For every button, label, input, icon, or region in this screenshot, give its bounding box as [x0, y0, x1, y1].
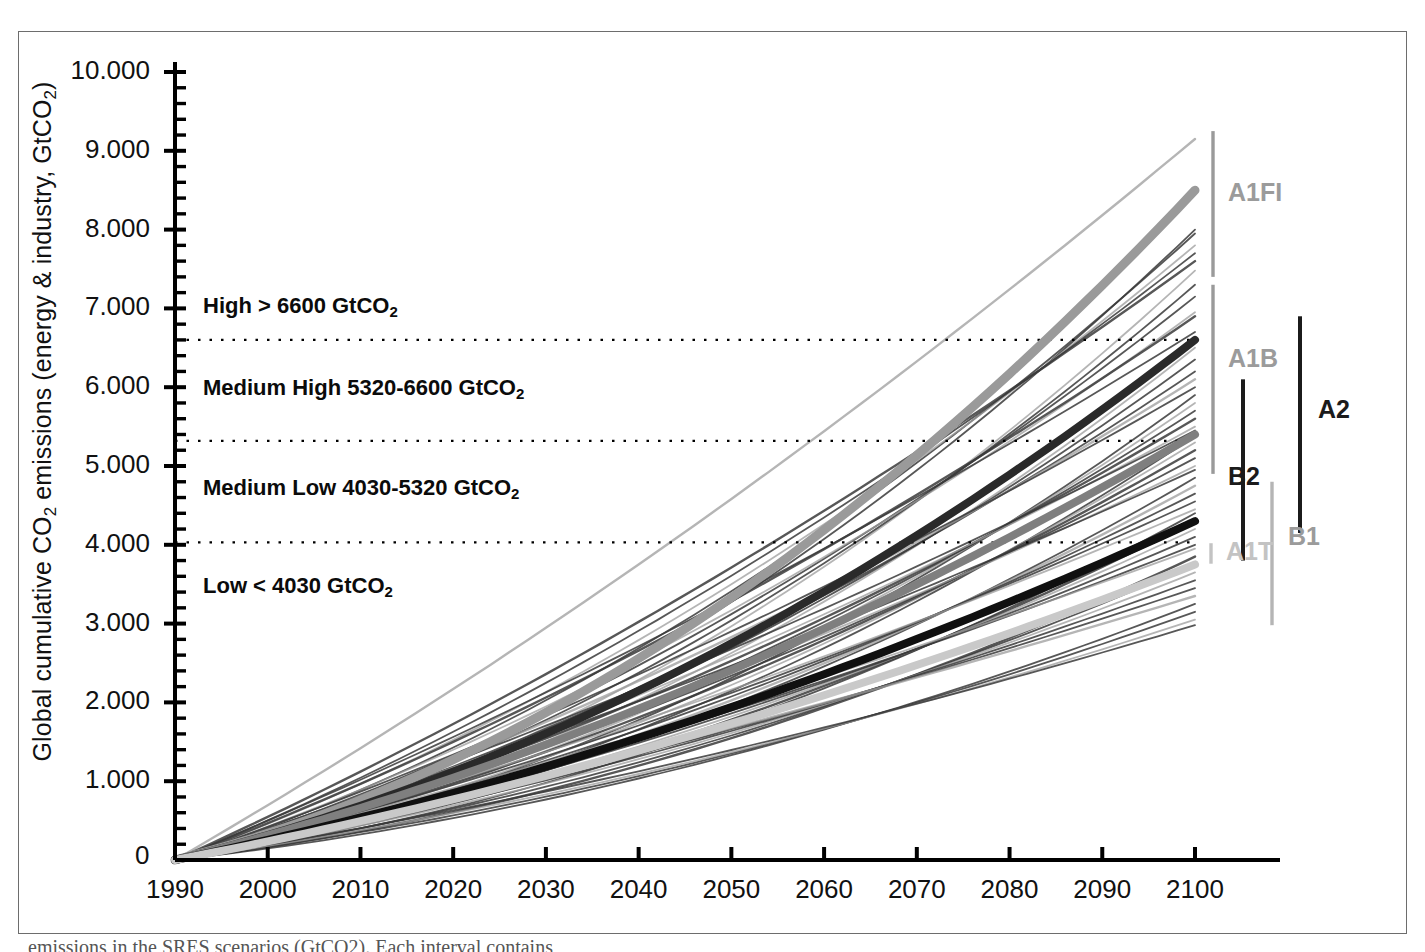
y-tick-label-8000: 8.000 — [30, 213, 150, 244]
y-tick-label-3000: 3.000 — [30, 607, 150, 638]
scenario-line-A1FI — [175, 190, 1195, 860]
legend-label-A1T: A1T — [1226, 537, 1273, 566]
figure-caption: emissions in the SRES scenarios (GtCO2).… — [28, 936, 1408, 952]
band-label-text: Medium High 5320-6600 GtCO — [203, 375, 516, 400]
y-tick-label-6000: 6.000 — [30, 370, 150, 401]
scenario-line-thin — [175, 261, 1195, 860]
legend-label-B2: B2 — [1228, 462, 1260, 491]
y-tick-label-5000: 5.000 — [30, 449, 150, 480]
y-tick-label-1000: 1.000 — [30, 764, 150, 795]
legend-label-A1FI: A1FI — [1228, 178, 1282, 207]
y-tick-label-0: 0 — [135, 840, 149, 871]
band-label-text: Medium Low 4030-5320 GtCO — [203, 475, 511, 500]
y-tick-label-4000: 4.000 — [30, 528, 150, 559]
band-label-text: Low < 4030 GtCO — [203, 573, 385, 598]
y-tick-label-7000: 7.000 — [30, 291, 150, 322]
band-label-text: High > 6600 GtCO — [203, 293, 389, 318]
scenario-line-thin — [175, 360, 1195, 860]
band-label-low: Low < 4030 GtCO2 — [203, 573, 393, 599]
band-label-high: High > 6600 GtCO2 — [203, 293, 398, 319]
band-label-medium-high: Medium High 5320-6600 GtCO2 — [203, 375, 524, 401]
x-tick-label-2100: 2100 — [1135, 874, 1255, 905]
scenario-line-thin — [175, 234, 1195, 861]
legend-label-B1: B1 — [1288, 522, 1320, 551]
y-tick-label-9000: 9.000 — [30, 134, 150, 165]
legend-label-A1B: A1B — [1228, 344, 1278, 373]
y-tick-label-2000: 2.000 — [30, 685, 150, 716]
legend-label-A2: A2 — [1318, 395, 1350, 424]
band-label-medium-low: Medium Low 4030-5320 GtCO2 — [203, 475, 519, 501]
y-tick-label-10000: 10.000 — [30, 55, 150, 86]
